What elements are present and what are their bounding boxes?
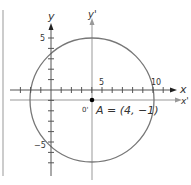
y-tick-neg5-label: −5	[34, 141, 46, 150]
prime-axes	[10, 18, 182, 180]
point-a-label: A = (4, −1)	[95, 104, 159, 117]
x-tick-10-label: 10	[151, 78, 161, 87]
origin-prime-label: 0'	[82, 106, 88, 114]
circle-diagram: y y' x x' 5 −5 5 10 0' A = (4, −1)	[0, 0, 191, 185]
y-prime-axis-label: y'	[87, 9, 97, 20]
point-a	[90, 98, 95, 103]
x-tick-5-label: 5	[99, 78, 104, 87]
y-tick-5-label: 5	[40, 34, 45, 43]
y-axis-label: y	[47, 10, 55, 23]
x-arrow-icon	[170, 88, 177, 93]
x-axis-label: x	[179, 83, 187, 96]
y-arrow-icon	[49, 23, 54, 30]
x-prime-axis-label: x'	[180, 96, 189, 106]
